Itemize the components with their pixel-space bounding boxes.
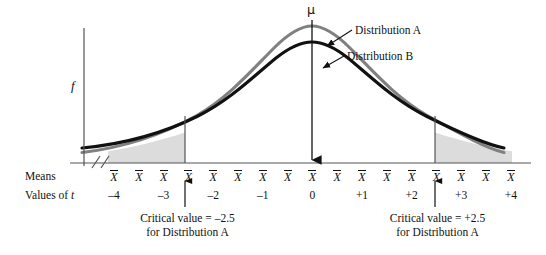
leader-line-distribution-b [323,56,344,68]
mean-symbol: X [457,170,465,183]
legend-label-distribution-b: Distribution B [347,50,413,62]
curve-distribution-a [82,26,504,153]
t-value-tick: –4 [108,189,120,201]
mu-label: μ [307,2,315,17]
means-row-label: Means [25,170,56,182]
curve-distribution-b [82,42,504,148]
axis-break-icon [92,156,109,168]
legend-label-distribution-a: Distribution A [355,24,421,36]
mean-symbol: X [160,170,168,183]
critical-left-line1: Critical value = –2.5 [140,212,235,224]
t-value-tick: +2 [405,189,417,201]
mean-symbol: X [432,170,440,183]
mean-symbol: X [408,170,416,183]
mean-symbol: X [507,170,515,183]
t-values-row-label: Values of t [25,189,74,201]
mean-symbol: X [308,170,316,183]
mean-symbol: X [110,170,118,183]
mean-symbol: X [135,170,143,183]
critical-right-line1: Critical value = +2.5 [390,212,485,224]
t-value-tick: –1 [257,189,269,201]
chart-figure: f μ Distribution A Distribution B Means … [0,0,546,255]
t-value-tick: +3 [455,189,467,201]
mean-symbol: X [184,170,192,183]
t-value-tick: +1 [356,189,368,201]
critical-right-line2: for Distribution A [396,226,478,238]
mean-symbol: X [234,170,242,183]
t-value-tick: 0 [310,189,316,201]
mean-symbol: X [358,170,366,183]
critical-left-line2: for Distribution A [146,226,228,238]
mean-symbol: X [209,170,217,183]
y-axis-label: f [71,78,75,94]
critical-value-right-caption: Critical value = +2.5 for Distribution A [370,211,505,239]
mean-symbol: X [284,170,292,183]
mean-symbol: X [333,170,341,183]
mean-symbol: X [259,170,267,183]
mean-symbol: X [383,170,391,183]
mean-symbol: X [482,170,490,183]
critical-value-left-caption: Critical value = –2.5 for Distribution A [120,211,255,239]
t-value-tick: –2 [207,189,219,201]
t-value-tick: –3 [158,189,170,201]
t-value-tick: +4 [505,189,517,201]
